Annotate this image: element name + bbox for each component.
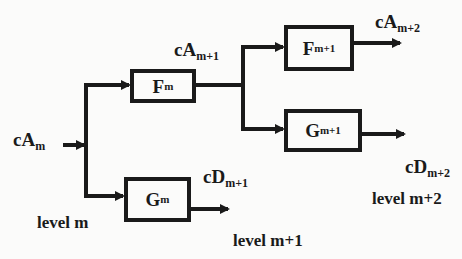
block-label-Fm1: Fm+1 xyxy=(286,27,352,69)
signal-cAm: cAm xyxy=(13,130,45,152)
signal-cDm2: cDm+2 xyxy=(405,157,450,179)
block-label-Gm: Gm xyxy=(126,179,189,220)
level-label-m2: level m+2 xyxy=(372,190,442,207)
level-label-m1: level m+1 xyxy=(233,232,303,249)
level-label-m: level m xyxy=(37,214,88,231)
signal-cDm1: cDm+1 xyxy=(203,167,248,189)
signal-cAm2: cAm+2 xyxy=(375,12,420,34)
block-label-Gm1: Gm+1 xyxy=(286,111,360,150)
signal-cAm1: cAm+1 xyxy=(174,40,219,62)
block-label-Fm: Fm xyxy=(132,71,194,101)
